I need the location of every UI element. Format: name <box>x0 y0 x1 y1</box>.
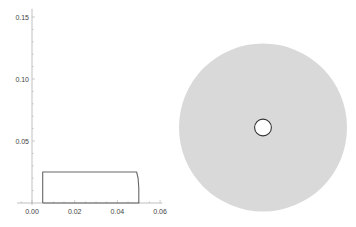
center-hole <box>255 119 272 136</box>
x-tick-label: 0.02 <box>68 208 82 215</box>
figure: 0.050.100.150.000.020.040.06 <box>0 0 356 227</box>
y-tick-label: 0.05 <box>15 138 29 145</box>
x-tick-label: 0.04 <box>111 208 125 215</box>
y-tick-label: 0.10 <box>15 76 29 83</box>
x-tick-label: 0.06 <box>153 208 167 215</box>
profile-line <box>43 172 139 203</box>
profile-plot: 0.050.100.150.000.020.040.06 <box>15 9 167 215</box>
disc-view <box>179 44 347 212</box>
y-tick-label: 0.15 <box>15 14 29 21</box>
x-tick-label: 0.00 <box>25 208 39 215</box>
